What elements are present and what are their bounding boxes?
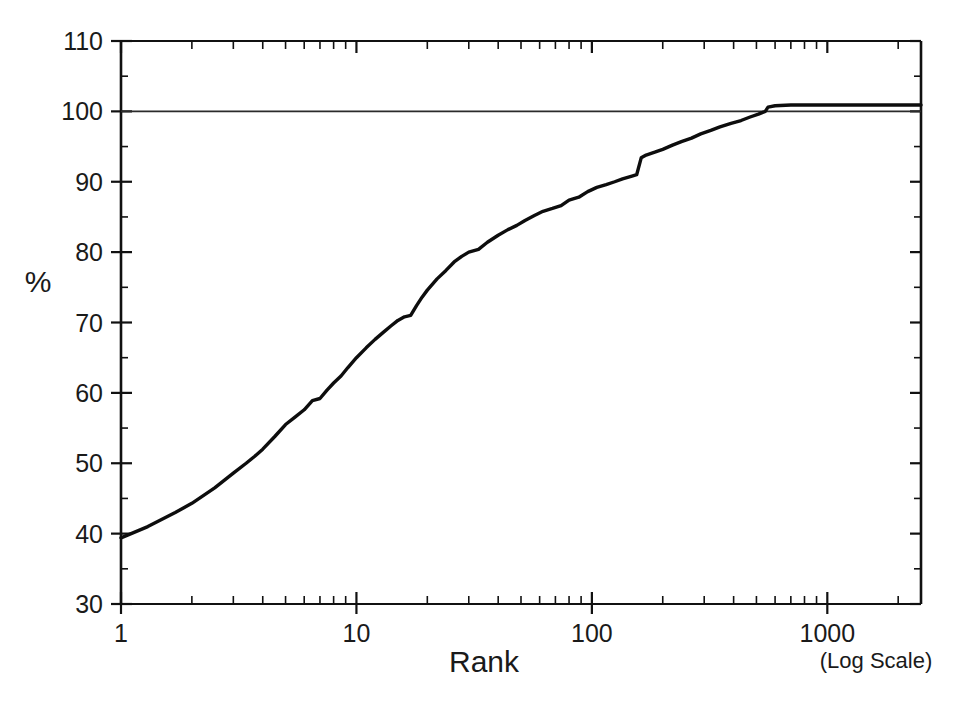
y-tick-label: 60 — [75, 379, 103, 407]
y-tick-label: 80 — [75, 238, 103, 266]
x-axis-title: Rank — [449, 645, 520, 678]
y-tick-label: 90 — [75, 168, 103, 196]
y-tick-label: 50 — [75, 449, 103, 477]
y-tick-label: 40 — [75, 520, 103, 548]
x-tick-label: 10 — [343, 619, 371, 647]
x-axis-scale-note: (Log Scale) — [820, 648, 933, 673]
y-tick-label: 100 — [61, 97, 103, 125]
y-axis-title: % — [25, 265, 52, 298]
x-tick-label: 100 — [571, 619, 613, 647]
y-tick-label: 30 — [75, 590, 103, 618]
chart-figure: 11010090807060504030 1101001000 % Rank (… — [0, 0, 960, 703]
y-tick-label: 70 — [75, 309, 103, 337]
y-tick-label: 110 — [63, 27, 103, 55]
x-tick-label: 1000 — [799, 619, 855, 647]
chart-canvas: 11010090807060504030 1101001000 % Rank (… — [0, 0, 960, 703]
x-tick-label: 1 — [114, 619, 128, 647]
